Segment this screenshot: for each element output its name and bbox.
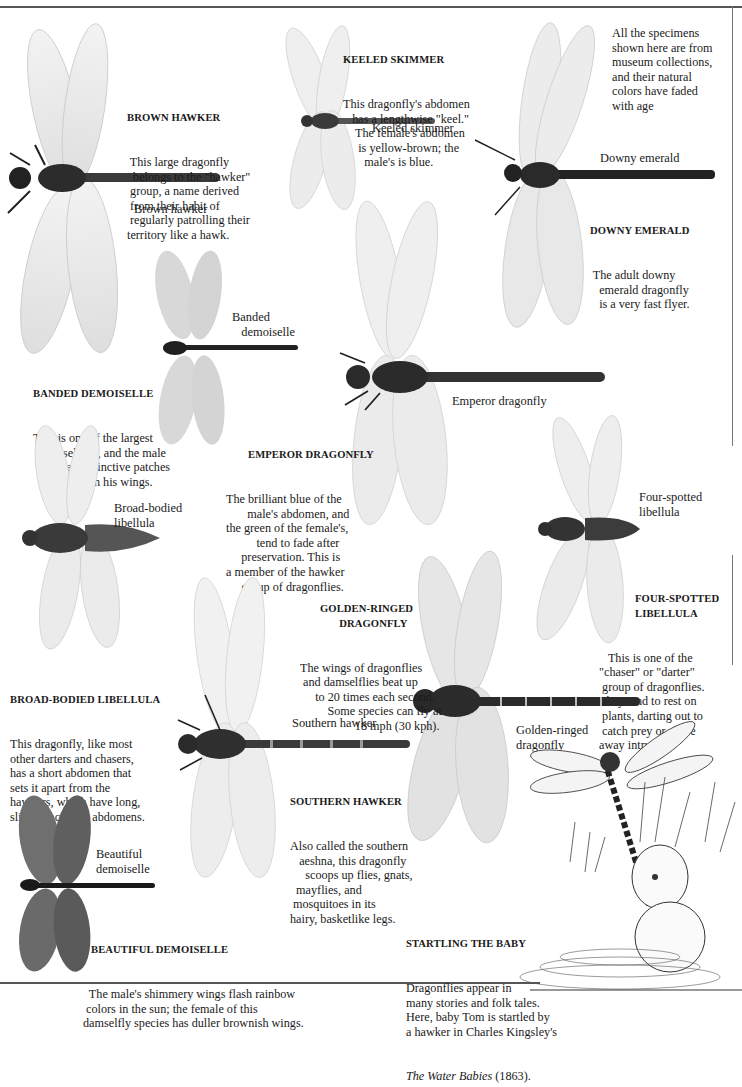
keeled-skimmer-label: Keeled skimmer [372,121,454,136]
startling-the-baby-caption: STARTLING THE BABY Dragonflies appear in… [406,908,557,1087]
book-title: The Water Babies [406,1069,492,1083]
brown-hawker-caption: BROWN HAWKER This large dragonfly belong… [127,82,250,272]
broad-bodied-libellula-heading: BROAD-BODIED LIBELLULA [10,693,160,708]
water-babies-illustration [530,722,742,992]
beautiful-demoiselle-text: The male's shimmery wings flash rainbow … [83,987,304,1031]
southern-hawker-text: Also called the southern aeshna, this dr… [290,839,413,927]
right-rule [732,6,733,446]
brown-hawker-heading: BROWN HAWKER [127,111,250,126]
startling-the-baby-citation: The Water Babies (1863). [406,1069,557,1084]
southern-hawker-heading: SOUTHERN HAWKER [290,795,413,810]
broad-bodied-libellula-image [15,425,175,650]
emperor-dragonfly-heading: EMPEROR DRAGONFLY [226,448,374,463]
emperor-dragonfly-label: Emperor dragonfly [452,394,547,409]
broad-bodied-libellula-label: Broad-bodied libellula [114,501,182,530]
top-rule [0,6,742,8]
banded-demoiselle-label: Banded demoiselle [232,310,295,339]
beautiful-demoiselle-label: Beautiful demoiselle [96,847,150,876]
southern-hawker-caption: SOUTHERN HAWKER Also called the southern… [290,766,413,956]
downy-emerald-label: Downy emerald [600,151,679,166]
keeled-skimmer-caption: KEELED SKIMMER This dragonfly's abdomen … [343,24,470,199]
book-year: (1863). [492,1069,531,1083]
startling-the-baby-heading: STARTLING THE BABY [406,937,557,952]
beautiful-demoiselle-heading: BEAUTIFUL DEMOISELLE [83,943,304,958]
startling-the-baby-text: Dragonflies appear in many stories and f… [406,981,557,1039]
brown-hawker-text: This large dragonfly belongs to the "haw… [127,155,250,243]
four-spotted-libellula-label: Four-spotted libellula [639,490,702,519]
brown-hawker-label: Brown hawker [134,202,207,217]
southern-hawker-label: Southern hawker [292,716,376,731]
beautiful-demoiselle-caption: BEAUTIFUL DEMOISELLE The male's shimmery… [83,914,304,1060]
right-rule-lower [732,555,733,665]
keeled-skimmer-heading: KEELED SKIMMER [343,53,470,68]
banded-demoiselle-heading: BANDED DEMOISELLE [33,387,170,402]
